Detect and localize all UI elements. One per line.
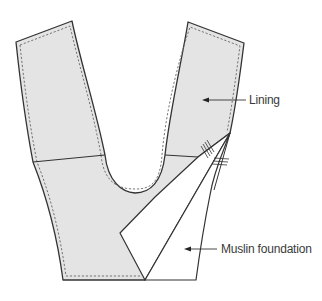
bodice-lining-diagram: Lining Muslin foundation — [0, 0, 322, 301]
lining-label: Lining — [249, 93, 280, 107]
muslin-label: Muslin foundation — [221, 242, 312, 256]
muslin-callout: Muslin foundation — [184, 242, 312, 256]
